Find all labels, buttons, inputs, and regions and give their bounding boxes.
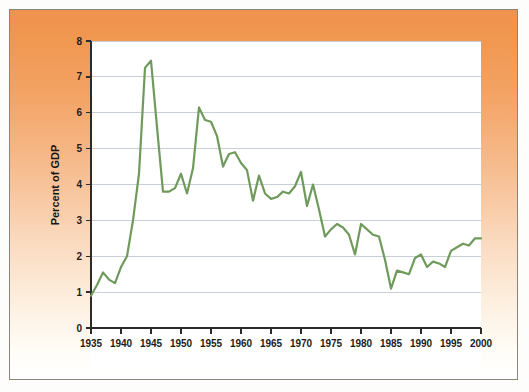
x-axis-tick-labels: 1935194019451950195519601965197019751980… [80, 338, 493, 349]
data-series [91, 61, 481, 296]
y-tick-label-8: 8 [76, 36, 82, 47]
y-tick-label-1: 1 [76, 287, 82, 298]
x-tick-label-1965: 1965 [260, 338, 283, 349]
y-tick-label-6: 6 [76, 107, 82, 118]
x-tick-label-1990: 1990 [410, 338, 433, 349]
x-tick-label-1960: 1960 [230, 338, 253, 349]
x-tick-label-1955: 1955 [200, 338, 223, 349]
x-tick-label-1980: 1980 [350, 338, 373, 349]
y-tick-label-7: 7 [76, 71, 82, 82]
series-line-0 [91, 61, 481, 296]
x-tick-label-1950: 1950 [170, 338, 193, 349]
x-tick-label-1995: 1995 [440, 338, 463, 349]
line-chart: 1935194019451950195519601965197019751980… [10, 10, 518, 380]
x-tick-label-1935: 1935 [80, 338, 103, 349]
x-tick-label-2000: 2000 [470, 338, 493, 349]
gridlines [91, 41, 481, 292]
x-tick-label-1970: 1970 [290, 338, 313, 349]
x-axis-ticks [91, 328, 481, 334]
figure-frame: 1935194019451950195519601965197019751980… [9, 9, 518, 380]
x-tick-label-1985: 1985 [380, 338, 403, 349]
x-tick-label-1975: 1975 [320, 338, 343, 349]
y-tick-label-2: 2 [76, 251, 82, 262]
y-tick-label-0: 0 [76, 323, 82, 334]
y-tick-label-3: 3 [76, 215, 82, 226]
x-tick-label-1940: 1940 [110, 338, 133, 349]
figure-root: 1935194019451950195519601965197019751980… [0, 0, 529, 392]
y-axis-tick-labels: 012345678 [76, 36, 82, 334]
y-axis-title: Percent of GDP [49, 145, 61, 226]
y-tick-label-4: 4 [76, 179, 82, 190]
y-tick-label-5: 5 [76, 143, 82, 154]
x-tick-label-1945: 1945 [140, 338, 163, 349]
